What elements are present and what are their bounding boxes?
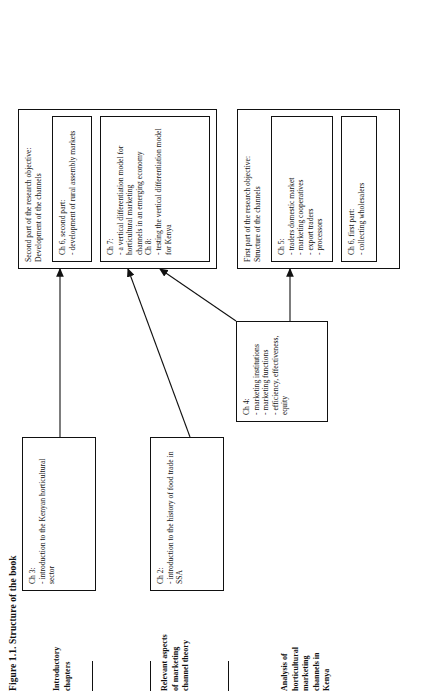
figure-canvas: Figure 1.1. Structure of the book Introd… <box>0 0 422 699</box>
box-ch7-ch8: Ch 7: - a vertical differentiation model… <box>100 116 210 262</box>
second-part-heading: Second part of the research objective: D… <box>24 112 44 262</box>
box-ch3: Ch 3: - introduction to the Kenyan horti… <box>22 437 96 591</box>
box-ch2: Ch 2: - introduction to the history of f… <box>150 437 224 591</box>
connector-layer <box>0 0 422 699</box>
box-ch5: Ch 5: - traders domestic market - market… <box>271 116 333 262</box>
box-ch4: Ch 4: - marketing institutions - marketi… <box>236 321 328 422</box>
first-part-heading: First part of the research objective: St… <box>243 112 263 262</box>
box-ch6-second-part: Ch 6, second part: - development of rura… <box>52 116 92 262</box>
box-ch6-first-part: Ch 6, first part: - collecting wholesale… <box>341 116 377 262</box>
